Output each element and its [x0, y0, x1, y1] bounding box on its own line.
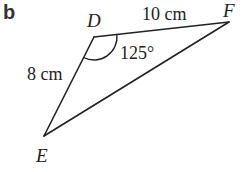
- part-label: b: [3, 1, 15, 23]
- side-label-df: 10 cm: [142, 4, 187, 24]
- vertex-label-d: D: [86, 10, 101, 31]
- vertex-label-e: E: [35, 145, 48, 166]
- triangle-diagram: b D F E 10 cm 8 cm 125°: [0, 0, 244, 172]
- angle-label-d: 125°: [120, 43, 154, 63]
- vertex-label-f: F: [222, 0, 235, 21]
- side-ef: [44, 22, 229, 136]
- side-label-de: 8 cm: [27, 64, 63, 84]
